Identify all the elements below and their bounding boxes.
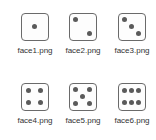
file-item-face6[interactable]: face6.png (108, 83, 156, 125)
file-name: face1.png (11, 46, 59, 55)
die-face-3-icon (118, 13, 146, 41)
file-item-face5[interactable]: face5.png (59, 83, 107, 125)
die-face-4-icon (21, 83, 49, 111)
die-face-6-icon (118, 83, 146, 111)
file-name: face3.png (108, 46, 156, 55)
file-item-face2[interactable]: face2.png (59, 13, 107, 55)
die-face-1-icon (21, 13, 49, 41)
file-name: face4.png (11, 116, 59, 125)
file-name: face6.png (108, 116, 156, 125)
file-name: face5.png (59, 116, 107, 125)
file-item-face4[interactable]: face4.png (11, 83, 59, 125)
file-item-face1[interactable]: face1.png (11, 13, 59, 55)
file-name: face2.png (59, 46, 107, 55)
die-face-2-icon (69, 13, 97, 41)
die-face-5-icon (69, 83, 97, 111)
file-item-face3[interactable]: face3.png (108, 13, 156, 55)
